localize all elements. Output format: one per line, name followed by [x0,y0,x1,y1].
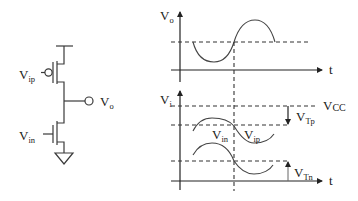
vin-curve-label: Vin [212,127,229,144]
top-y-label: Vo [160,8,174,25]
bottom-plot: Vi t VCC VTp VTn Vin Vip [160,91,346,190]
top-plot: Vo t [160,8,333,82]
ground-symbol [55,153,73,164]
vip-label: Vip [19,67,35,84]
vo-sine-wave [193,20,275,62]
bottom-y-label: Vi [160,92,172,109]
vo-label: Vo [100,94,114,111]
cmos-inverter-diagram: Vip Vin Vo Vo t Vi t VCC VTp VTn Vin Vip [0,0,358,201]
pmos-transistor [41,46,64,101]
bottom-x-label: t [329,173,333,188]
vcc-label: VCC [323,98,346,113]
circuit-schematic [41,46,93,164]
output-node [85,97,93,105]
vip-curve-label: Vip [244,127,260,144]
diagram-svg: Vip Vin Vo Vo t Vi t VCC VTp VTn Vin Vip [0,0,358,201]
vin-label: Vin [19,128,36,145]
vtn-label: VTn [294,165,314,182]
vin-curve [193,143,273,174]
pmos-gate-bubble [45,69,52,76]
nmos-transistor [43,101,64,153]
top-x-label: t [329,62,333,77]
vtp-label: VTp [296,109,315,126]
